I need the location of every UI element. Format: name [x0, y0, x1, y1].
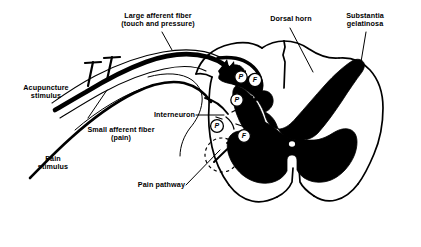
needle-2-handle [104, 57, 120, 58]
leader-pain-pathway [186, 150, 220, 185]
spinal-cord-diagram-svg [0, 0, 421, 247]
marker-p-upper-inner [235, 71, 247, 83]
needle-1-handle [85, 62, 101, 63]
small-afferent-fiber-path [30, 82, 228, 178]
large-fiber-sheath [52, 50, 220, 118]
dorsal-median-sulcus [283, 41, 285, 88]
marker-p-lower-left [211, 120, 224, 133]
figure-root: Large afferent fiber (touch and pressure… [0, 0, 421, 247]
central-canal [289, 141, 295, 146]
leader-small-afferent [88, 90, 107, 118]
leader-large-afferent [162, 32, 172, 50]
needle-1 [88, 62, 93, 86]
marker-f-upper-outer [248, 73, 261, 86]
marker-f-lower-right [238, 130, 251, 143]
marker-p-mid [231, 94, 243, 106]
